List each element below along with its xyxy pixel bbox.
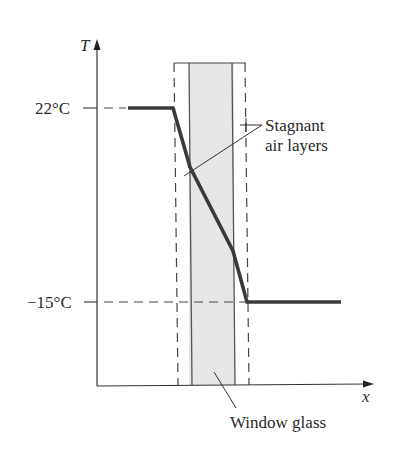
outer-air-layer-boundary [245, 63, 249, 385]
window-glass-label: Window glass [230, 413, 326, 433]
heat-transfer-diagram: T x 22°C −15°C Stagnant air layers Windo… [0, 0, 395, 465]
diagram-canvas [0, 0, 395, 465]
y-axis-arrow-icon [94, 39, 101, 50]
x-axis-label: x [362, 388, 370, 405]
stagnant-label-line1: Stagnant [265, 116, 328, 136]
y-axis-label: T [80, 37, 89, 54]
stagnant-air-callout: Stagnant air layers [265, 116, 328, 156]
stagnant-label-line2: air layers [265, 136, 328, 156]
window-glass-region [189, 63, 234, 385]
temp-label-outside: −15°C [27, 294, 72, 311]
temp-label-inside: 22°C [35, 100, 70, 117]
